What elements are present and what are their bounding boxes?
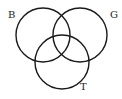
label-t: T (80, 81, 87, 92)
label-g: G (110, 9, 118, 20)
label-b: B (8, 9, 15, 20)
venn-diagram: B G T (0, 0, 122, 99)
